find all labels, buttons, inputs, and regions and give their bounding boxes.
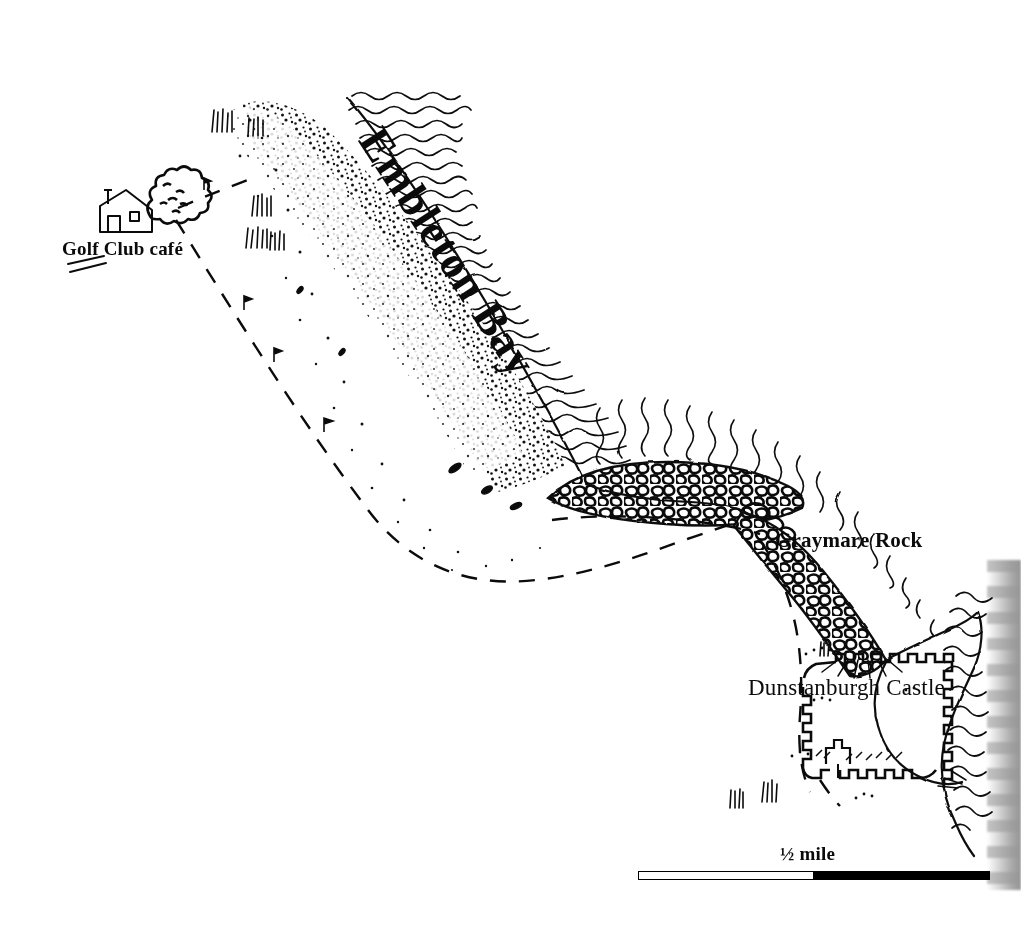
scale-bar-segment-black (814, 871, 990, 880)
map-label-graymare-rock: Graymare Rock (775, 528, 922, 553)
map-figure: Embleton Bay Graymare Rock Dunstanburgh … (0, 0, 1021, 934)
scale-bar-label: ½ mile (780, 843, 835, 865)
map-label-golf-club-cafe: Golf Club café (62, 238, 183, 260)
map-label-dunstanburgh-castle: Dunstanburgh Castle (748, 675, 945, 701)
scale-bar-segment-white (638, 871, 814, 880)
map-drawing-canvas (0, 0, 1021, 934)
scale-bar (638, 871, 990, 882)
